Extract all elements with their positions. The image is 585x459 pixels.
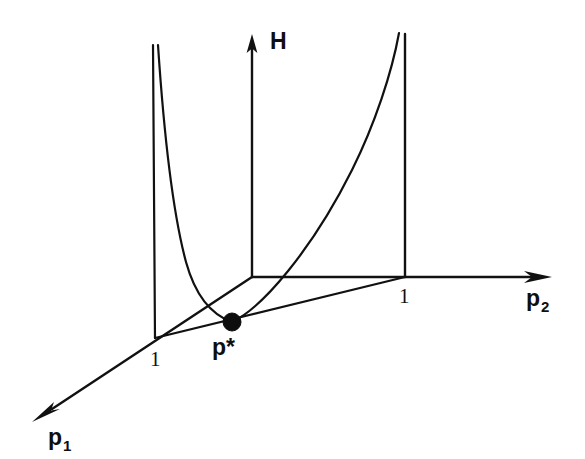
optimum-point-label: p* [212,334,235,360]
axis-group [32,34,552,422]
optimum-point-marker [223,313,241,331]
label-group: H p 2 p 1 1 1 p* [48,28,549,454]
simplex-constraint-line [155,277,405,338]
axis-h [247,34,258,277]
axis-label-p2-subscript: 2 [541,298,549,315]
axis-label-p1-base: p [48,424,62,450]
axis-label-p2-base: p [526,285,540,311]
axis-label-h: H [270,28,287,54]
curve-group [158,33,399,322]
entropy-simplex-diagram: H p 2 p 1 1 1 p* [0,0,585,459]
axis-label-p2: p 2 [526,285,549,315]
axis-label-p1: p 1 [48,424,71,454]
wall-line-p1 [153,45,155,338]
axis-p1-arrowhead-icon [32,402,60,422]
entropy-curve-left [158,45,232,322]
wall-group [153,34,405,338]
entropy-curve-right [232,33,399,322]
tick-label-p1-one: 1 [150,347,161,371]
figure-canvas: H p 2 p 1 1 1 p* [0,0,585,459]
tick-label-p2-one: 1 [399,284,410,308]
axis-label-p1-subscript: 1 [63,437,71,454]
